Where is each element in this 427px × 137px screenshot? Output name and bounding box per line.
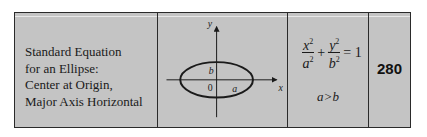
exponent: 2 — [309, 37, 313, 46]
exponent: 2 — [310, 55, 314, 64]
diagram-cell: x y 0 b a — [158, 13, 288, 127]
exponent: 2 — [335, 37, 339, 46]
x-axis-label: x — [278, 82, 284, 93]
title-line: Major Axis Horizontal — [25, 94, 143, 111]
title-cell: Standard Equation for an Ellipse: Center… — [15, 13, 158, 127]
plus-sign: + — [317, 45, 325, 61]
semi-minor-label: b — [209, 65, 214, 76]
a-denominator: a — [303, 56, 310, 71]
semi-major-label: a — [232, 83, 237, 94]
page-cell: 280 — [369, 13, 410, 127]
page-number: 280 — [369, 60, 410, 77]
b-denominator: b — [329, 56, 336, 71]
equation-title: Standard Equation for an Ellipse: Center… — [25, 44, 143, 110]
x-term-fraction: x2 a2 — [302, 35, 314, 70]
y-term-fraction: y2 b2 — [328, 35, 340, 70]
exponent: 2 — [336, 55, 340, 64]
origin-label: 0 — [208, 82, 213, 93]
title-line: for an Ellipse: — [25, 61, 143, 78]
ellipse-diagram: x y 0 b a — [158, 13, 287, 127]
equals-one: = 1 — [343, 45, 361, 61]
y-axis-label: y — [207, 18, 213, 29]
title-line: Standard Equation — [25, 44, 143, 61]
ellipse-reference-table: Standard Equation for an Ellipse: Center… — [14, 12, 411, 128]
standard-equation: x2 a2 + y2 b2 = 1 — [302, 35, 365, 70]
condition: a>b — [288, 89, 368, 105]
equation-cell: x2 a2 + y2 b2 = 1 a>b — [288, 13, 369, 127]
title-line: Center at Origin, — [25, 77, 143, 94]
